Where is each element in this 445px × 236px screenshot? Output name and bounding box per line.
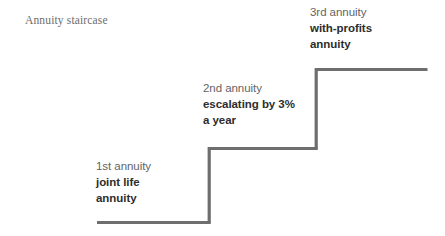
step-2-label: 2nd annuity escalating by 3% a year (203, 80, 295, 128)
step-2-description-line-2: a year (203, 112, 295, 128)
step-1-index-label: 1st annuity (96, 158, 151, 174)
step-1-label: 1st annuity joint life annuity (96, 158, 151, 206)
step-2-description-line-1: escalating by 3% (203, 96, 295, 112)
step-3-description-line-1: with-profits (310, 20, 372, 36)
step-1-description-line-1: joint life (96, 174, 151, 190)
step-3-index-label: 3rd annuity (310, 4, 372, 20)
annuity-staircase-figure: Annuity staircase 1st annuity joint life… (0, 0, 445, 236)
step-3-description-line-2: annuity (310, 36, 372, 52)
step-3-label: 3rd annuity with-profits annuity (310, 4, 372, 52)
step-2-index-label: 2nd annuity (203, 80, 295, 96)
step-1-description-line-2: annuity (96, 190, 151, 206)
